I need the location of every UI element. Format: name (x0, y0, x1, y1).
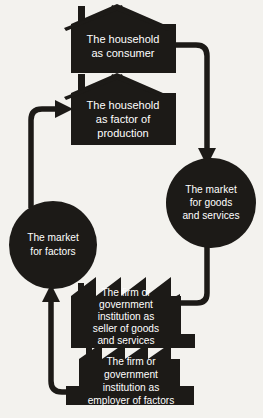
node-household-consumer: The household as consumer (64, 4, 176, 73)
node-firm-seller: The firm or government institution as se… (71, 277, 195, 348)
node-label-line: and services (182, 210, 239, 221)
node-label-line: and services (97, 335, 154, 346)
node-label-line: The household (87, 33, 160, 45)
node-label-line: institution as (98, 311, 155, 322)
node-label-line: seller of goods (93, 323, 159, 334)
node-label-line: for goods (190, 197, 232, 208)
node-label-line: The household (87, 99, 160, 111)
node-label-line: as factor of (96, 113, 151, 125)
flow-diagram-canvas: The household as consumer The household … (0, 0, 263, 418)
node-market-goods-services: The market for goods and services (166, 158, 256, 248)
circular-flow-diagram: The household as consumer The household … (0, 0, 263, 418)
node-label-line: as consumer (92, 47, 155, 59)
node-market-factors: The market for factors (9, 201, 97, 289)
node-label-line: The firm or (106, 356, 156, 367)
connector-factor-market-to-household (31, 100, 73, 208)
node-label-line: government (104, 369, 158, 380)
node-label-line: The market (27, 232, 79, 243)
node-label-line: The market (185, 184, 237, 195)
node-label-line: The firm or (101, 287, 151, 298)
node-label-line: for factors (30, 246, 75, 257)
node-label-line: production (97, 127, 148, 139)
node-label-line: government (99, 299, 153, 310)
node-label-line: employer of factors (88, 395, 175, 406)
connector-consumer-to-goods-market (176, 45, 216, 166)
node-firm-employer: The firm or government institution as em… (66, 343, 194, 406)
node-household-factor: The household as factor of production (64, 73, 176, 145)
node-label-line: institution as (103, 382, 160, 393)
